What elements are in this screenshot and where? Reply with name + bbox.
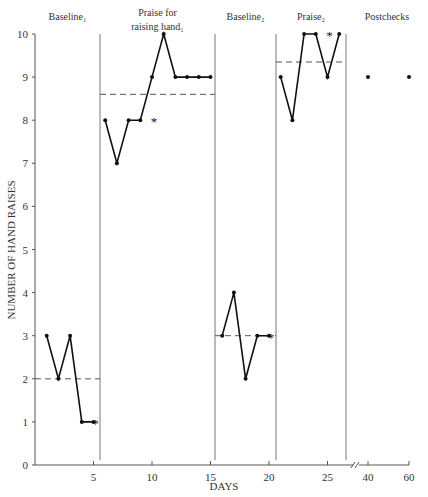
data-point — [103, 118, 107, 122]
data-point — [314, 32, 318, 36]
y-tick-label: 2 — [23, 373, 29, 385]
data-point — [80, 420, 84, 424]
data-point — [115, 161, 119, 165]
y-tick-label: 6 — [23, 200, 29, 212]
phase-label: raising hand₁ — [131, 21, 184, 32]
x-tick-label: 5 — [91, 471, 97, 483]
y-tick-label: 9 — [23, 71, 29, 83]
phase-label: Praise for — [138, 7, 177, 18]
data-point — [45, 334, 49, 338]
y-tick-label: 10 — [17, 28, 29, 40]
y-tick-label: 5 — [23, 244, 29, 256]
y-tick-label: 0 — [23, 459, 29, 471]
x-tick-label: 60 — [404, 471, 416, 483]
data-point — [185, 75, 189, 79]
y-tick-label: 7 — [23, 157, 29, 169]
data-point — [220, 334, 224, 338]
x-tick-label: 20 — [264, 471, 276, 483]
data-point — [326, 75, 330, 79]
y-tick-label: 4 — [23, 287, 29, 299]
asterisk-marker: * — [268, 330, 275, 345]
data-point — [366, 75, 370, 79]
hand-raises-chart: 0123456789105101520254060 **** Baseline₁… — [0, 0, 428, 497]
data-point — [150, 75, 154, 79]
asterisk-marker: * — [92, 416, 99, 431]
x-tick-label: 40 — [363, 471, 375, 483]
data-point — [127, 118, 131, 122]
data-point — [407, 75, 411, 79]
data-point — [279, 75, 283, 79]
x-tick-label: 10 — [147, 471, 159, 483]
phase-label: Baseline₁ — [49, 11, 87, 22]
data-point — [232, 291, 236, 295]
phase-label: Postchecks — [365, 11, 410, 22]
data-point — [209, 75, 213, 79]
data-point — [290, 118, 294, 122]
data-point — [302, 32, 306, 36]
data-point — [255, 334, 259, 338]
phase-line — [281, 34, 340, 120]
data-point — [337, 32, 341, 36]
phase-label: Praise₂ — [297, 11, 325, 22]
phase-label: Baseline₂ — [227, 11, 265, 22]
data-point — [68, 334, 72, 338]
x-tick-label: 25 — [322, 471, 334, 483]
data-point — [162, 32, 166, 36]
data-point — [138, 118, 142, 122]
phase-line — [105, 34, 210, 163]
phase-labels: Baseline₁Praise forraising hand₁Baseline… — [49, 7, 410, 32]
y-axis-label: NUMBER OF HAND RAISES — [5, 180, 17, 319]
y-tick-label: 8 — [23, 114, 29, 126]
data-point — [173, 75, 177, 79]
data-point — [244, 377, 248, 381]
x-axis-label: DAYS — [210, 480, 239, 492]
data-point — [56, 377, 60, 381]
asterisk-marker: * — [326, 28, 333, 43]
y-tick-label: 3 — [23, 330, 29, 342]
data-point — [197, 75, 201, 79]
y-tick-label: 1 — [23, 416, 29, 428]
phase-dividers — [100, 34, 346, 460]
phase-mean-lines — [35, 62, 346, 379]
asterisk-marker: * — [151, 114, 158, 129]
axes: 0123456789105101520254060 — [17, 28, 415, 483]
